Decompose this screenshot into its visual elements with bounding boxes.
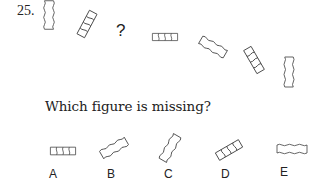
option-e-label: E: [280, 165, 288, 179]
option-e-figure: [0, 0, 325, 184]
